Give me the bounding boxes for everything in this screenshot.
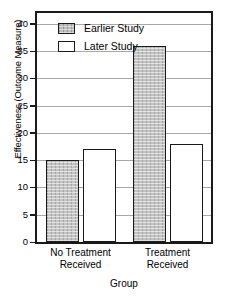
y-tick-label: 5 [6,210,28,220]
legend-item-earlier-study: Earlier Study [58,21,144,36]
legend-item-later-study: Later Study [58,39,144,54]
legend-label-later-study: Later Study [84,41,138,52]
y-tick-label: 35 [6,46,28,56]
x-axis-title: Group [35,278,213,289]
bar-later-study-group-2 [170,144,203,242]
gridline [37,78,211,79]
legend-swatch-later-study [58,41,75,52]
y-tick-label: 30 [6,73,28,83]
x-tick-label-line: No Treatment [31,247,131,259]
legend: Earlier Study Later Study [58,21,144,57]
bar-earlier-study-group-2 [133,46,166,242]
x-tick-label-group-2: TreatmentReceived [118,247,218,270]
x-tick-label-line: Received [31,259,131,271]
gridline [37,106,211,107]
legend-swatch-earlier-study [58,23,75,34]
y-tick-label: 40 [6,19,28,29]
x-tick-label-line: Treatment [118,247,218,259]
y-tick-label: 10 [6,182,28,192]
x-tick-label-group-1: No TreatmentReceived [31,247,131,270]
legend-label-earlier-study: Earlier Study [84,23,144,34]
bar-earlier-study-group-1 [46,160,79,242]
gridline [37,133,211,134]
y-tick-label: 15 [6,155,28,165]
bar-later-study-group-1 [83,149,116,242]
y-axis-title: Effectiveness (Outcome Measure) [13,9,23,169]
y-tick-label: 20 [6,128,28,138]
plot-area: Earlier Study Later Study [35,11,213,244]
y-tick-label: 0 [6,237,28,247]
x-tick-label-line: Received [118,259,218,271]
y-tick-label: 25 [6,101,28,111]
bar-chart-figure: Effectiveness (Outcome Measure) 05101520… [0,0,226,296]
